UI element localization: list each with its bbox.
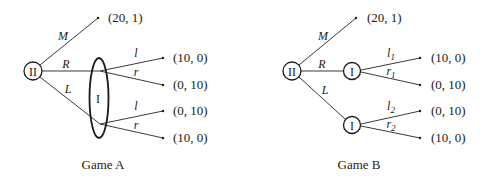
- game-b-payoff-l2: (0, 10): [431, 103, 466, 118]
- game-a-edge-l-l: [100, 111, 163, 124]
- game-b-terminal-l1: [419, 57, 421, 59]
- game-a-caption: Game A: [82, 157, 126, 172]
- game-a-edge-l-r: [100, 124, 163, 138]
- game-a-label-r: R: [61, 57, 70, 71]
- game-a-terminal-rr: [162, 84, 164, 86]
- game-b-label-r1: r1: [386, 64, 395, 80]
- game-a-terminal-lr: [162, 137, 164, 139]
- game-b-terminal-m: [355, 17, 357, 19]
- game-a-root-player: II: [29, 65, 37, 79]
- game-a: II I M R L l r l r (20, 1) (10, 0) (0, 1…: [24, 10, 208, 172]
- game-b-payoff-r1: (0, 10): [431, 77, 466, 92]
- game-a-label-r-r: r: [134, 65, 139, 79]
- game-a-label-l-r: r: [134, 118, 139, 132]
- game-b-label-l2: l2: [387, 99, 395, 115]
- game-b-label-r: R: [317, 57, 326, 71]
- game-a-payoff-rr: (0, 10): [173, 77, 208, 92]
- game-b-node-r-player: I: [350, 65, 354, 79]
- game-a-terminal-rl: [162, 57, 164, 59]
- game-b-terminal-l2: [419, 110, 421, 112]
- game-a-edge-r-l: [100, 58, 163, 71]
- game-a-label-l-l: l: [134, 99, 138, 113]
- game-b-label-l1: l1: [387, 46, 395, 62]
- game-b-label-m: M: [317, 29, 329, 43]
- game-a-label-r-l: l: [134, 46, 138, 60]
- game-a-payoff-m: (20, 1): [108, 10, 143, 25]
- game-b-payoff-m: (20, 1): [367, 10, 402, 25]
- game-a-edge-r-r: [100, 71, 163, 85]
- game-b-label-r2: r2: [386, 117, 396, 133]
- game-a-label-m: M: [57, 29, 69, 43]
- game-a-infoset-player: I: [96, 92, 100, 106]
- game-a-label-l: L: [64, 82, 72, 96]
- game-b-caption: Game B: [338, 157, 381, 172]
- game-b-payoff-r2: (10, 0): [431, 130, 466, 145]
- game-a-terminal-ll: [162, 110, 164, 112]
- game-b-terminal-r1: [419, 84, 421, 86]
- game-b-root-player: II: [288, 65, 296, 79]
- game-b-node-l-player: I: [350, 119, 354, 133]
- game-b-payoff-l1: (10, 0): [431, 50, 466, 65]
- game-b: II I I M R L l1 r1 l2 r2 (20, 1) (10, 0)…: [283, 10, 466, 172]
- game-b-terminal-r2: [419, 137, 421, 139]
- game-a-payoff-rl: (10, 0): [173, 50, 208, 65]
- game-a-payoff-lr: (10, 0): [173, 130, 208, 145]
- game-a-terminal-m: [97, 17, 99, 19]
- game-trees-figure: II I M R L l r l r (20, 1) (10, 0) (0, 1…: [0, 0, 489, 178]
- game-a-payoff-ll: (0, 10): [173, 103, 208, 118]
- game-b-label-l: L: [321, 83, 329, 97]
